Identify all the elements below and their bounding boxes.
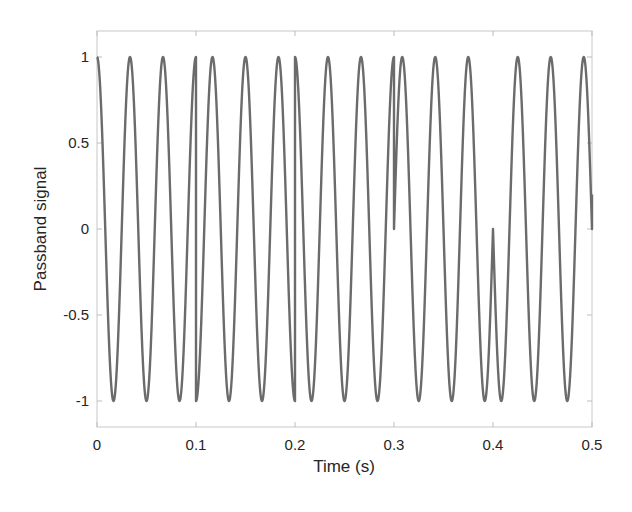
x-tick-label: 0.3 [384,436,405,453]
x-axis-label: Time (s) [313,457,375,476]
x-tick-label: 0 [93,436,101,453]
passband-signal-chart: 00.10.20.30.40.5 -1-0.500.51 Time (s) Pa… [0,0,632,512]
x-tick-label: 0.4 [483,436,504,453]
x-tick-label: 0.5 [582,436,603,453]
y-tick-label: 0 [81,220,89,237]
y-tick-label: 0.5 [68,134,89,151]
y-tick-label: -1 [76,392,89,409]
y-tick-labels: -1-0.500.51 [63,48,89,409]
x-tick-label: 0.1 [186,436,207,453]
y-axis-label: Passband signal [31,167,50,292]
y-tick-label: -0.5 [63,306,89,323]
y-tick-label: 1 [81,48,89,65]
x-tick-label: 0.2 [285,436,306,453]
x-tick-labels: 00.10.20.30.40.5 [93,436,603,453]
